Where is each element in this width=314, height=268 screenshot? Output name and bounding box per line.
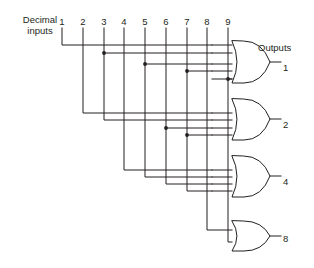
junction-dot-3 xyxy=(102,51,106,55)
junction-dot-6 xyxy=(164,126,168,130)
wire-input-6 xyxy=(166,28,212,184)
wire-input-7 xyxy=(187,28,212,191)
wire-input-4 xyxy=(124,28,212,170)
encoder-diagram-canvas: Decimal inputs Outputs 1 2 3 4 5 6 7 8 9… xyxy=(0,0,314,268)
wire-input-3 xyxy=(104,28,212,120)
junction-dot-9 xyxy=(226,77,230,81)
gate-3-body xyxy=(232,156,270,197)
junction-dot-5 xyxy=(143,62,147,66)
encoder-schematic-svg xyxy=(0,0,314,268)
wire-input-5 xyxy=(145,28,212,177)
junction-dot-7a xyxy=(185,69,189,73)
gate-2-body xyxy=(232,99,270,140)
gate-4-body xyxy=(232,221,270,251)
wire-input-1 xyxy=(62,28,212,45)
gate-1-body xyxy=(232,41,270,83)
junction-dot-7b xyxy=(185,133,189,137)
